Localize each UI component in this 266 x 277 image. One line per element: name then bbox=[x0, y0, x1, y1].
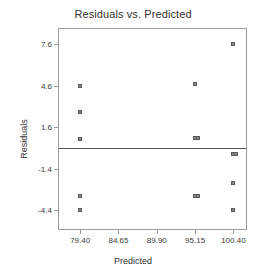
data-point-marker bbox=[78, 110, 82, 114]
data-point-marker bbox=[78, 137, 82, 141]
y-tick-label: -4.4 bbox=[38, 206, 52, 215]
y-tick-label: -1.4 bbox=[38, 164, 52, 173]
y-tick-mark bbox=[54, 44, 59, 45]
data-point-marker bbox=[231, 208, 235, 212]
x-tick-mark bbox=[233, 229, 234, 234]
plot-frame: 7.64.61.6-1.4-4.479.4084.6589.9095.15100… bbox=[58, 28, 247, 230]
plot-area: 7.64.61.6-1.4-4.479.4084.6589.9095.15100… bbox=[59, 29, 246, 229]
x-tick-mark bbox=[118, 229, 119, 234]
data-point-marker bbox=[234, 152, 238, 156]
x-tick-label: 100.40 bbox=[221, 236, 245, 245]
chart-title: Residuals vs. Predicted bbox=[0, 8, 266, 20]
data-point-marker bbox=[78, 208, 82, 212]
residual-plot-figure: Residuals vs. Predicted Residuals 7.64.6… bbox=[0, 0, 266, 277]
y-tick-mark bbox=[54, 127, 59, 128]
y-tick-mark bbox=[54, 210, 59, 211]
x-tick-mark bbox=[157, 229, 158, 234]
data-point-marker bbox=[231, 181, 235, 185]
data-point-marker bbox=[193, 82, 197, 86]
x-tick-mark bbox=[195, 229, 196, 234]
data-point-marker bbox=[231, 42, 235, 46]
y-tick-label: 7.6 bbox=[41, 40, 52, 49]
data-point-marker bbox=[196, 194, 200, 198]
data-point-marker bbox=[78, 84, 82, 88]
y-tick-mark bbox=[54, 169, 59, 170]
y-tick-mark bbox=[54, 86, 59, 87]
x-tick-label: 84.65 bbox=[108, 236, 128, 245]
data-point-marker bbox=[196, 136, 200, 140]
x-tick-label: 95.15 bbox=[185, 236, 205, 245]
y-tick-label: 1.6 bbox=[41, 123, 52, 132]
y-axis-title: Residuals bbox=[19, 119, 29, 159]
y-tick-label: 4.6 bbox=[41, 81, 52, 90]
x-tick-label: 89.90 bbox=[147, 236, 167, 245]
x-tick-label: 79.40 bbox=[70, 236, 90, 245]
x-tick-mark bbox=[80, 229, 81, 234]
zero-reference-line bbox=[59, 148, 246, 149]
x-axis-title: Predicted bbox=[0, 256, 266, 266]
data-point-marker bbox=[78, 194, 82, 198]
